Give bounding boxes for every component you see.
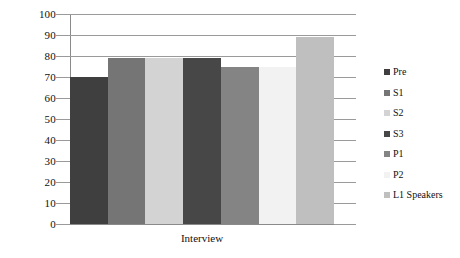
y-axis-tick-mark-right — [334, 56, 356, 57]
y-axis-tick-label: 70 — [45, 72, 56, 83]
gridline — [70, 224, 334, 225]
x-axis-label: Interview — [70, 232, 334, 245]
legend-item: S1 — [384, 83, 460, 104]
y-axis-tick-label: 20 — [45, 177, 56, 188]
legend-label: P1 — [393, 149, 404, 159]
bar-s1 — [108, 58, 146, 224]
y-axis-tick-mark-right — [334, 140, 356, 141]
y-axis-tick-mark-right — [334, 161, 356, 162]
y-axis-tick-label: 40 — [45, 135, 56, 146]
legend-item: L1 Speakers — [384, 185, 460, 206]
bar-s2 — [145, 58, 183, 224]
legend-swatch-icon — [384, 90, 390, 96]
bar-p2 — [259, 67, 297, 225]
bar-pre — [70, 77, 108, 224]
legend-item: Pre — [384, 62, 460, 83]
legend-label: P2 — [393, 170, 404, 180]
y-axis-tick-mark-right — [334, 182, 356, 183]
legend-label: S1 — [393, 88, 404, 98]
y-axis-tick-mark — [56, 161, 70, 162]
y-axis-tick-mark — [56, 140, 70, 141]
y-axis-tick-label: 10 — [45, 198, 56, 209]
legend-swatch-icon — [384, 192, 390, 198]
bar-group — [70, 14, 334, 224]
y-axis-tick-label: 30 — [45, 156, 56, 167]
y-axis-tick-label: 50 — [45, 114, 56, 125]
legend-item: S2 — [384, 103, 460, 124]
y-axis-tick-mark — [56, 203, 70, 204]
y-axis-tick-label: 90 — [45, 30, 56, 41]
y-axis-tick-mark — [56, 98, 70, 99]
y-axis-tick-mark — [56, 77, 70, 78]
y-axis-tick-mark-right — [334, 98, 356, 99]
y-axis-tick-label: 60 — [45, 93, 56, 104]
legend-swatch-icon — [384, 151, 390, 157]
y-axis-tick-mark-right — [334, 77, 356, 78]
y-axis-tick-mark-right — [334, 14, 356, 15]
legend-swatch-icon — [384, 110, 390, 116]
y-axis-tick-mark-right — [334, 224, 356, 225]
legend-swatch-icon — [384, 172, 390, 178]
y-axis-tick-mark — [56, 182, 70, 183]
legend-item: S3 — [384, 124, 460, 145]
y-axis-tick-mark — [56, 56, 70, 57]
y-axis-tick-label: 80 — [45, 51, 56, 62]
legend-label: S2 — [393, 108, 404, 118]
legend-item: P1 — [384, 144, 460, 165]
legend-swatch-icon — [384, 69, 390, 75]
plot-area — [70, 14, 334, 224]
bar-chart: 1009080706050403020100 Interview PreS1S2… — [0, 0, 460, 258]
y-axis-tick-mark — [56, 224, 70, 225]
y-axis-tick-label: 100 — [39, 9, 56, 20]
bar-s3 — [183, 58, 221, 224]
y-axis-tick-mark-right — [334, 119, 356, 120]
legend-label: S3 — [393, 129, 404, 139]
y-axis-tick-mark-right — [334, 35, 356, 36]
y-axis-tick-mark — [56, 14, 70, 15]
y-axis-tick-mark — [56, 119, 70, 120]
bar-p1 — [221, 67, 259, 225]
y-axis-tick-labels: 1009080706050403020100 — [0, 0, 56, 258]
bar-l1-speakers — [296, 37, 334, 224]
legend-label: L1 Speakers — [393, 190, 443, 200]
y-axis-tick-mark — [56, 35, 70, 36]
legend-label: Pre — [393, 67, 406, 77]
legend-item: P2 — [384, 165, 460, 186]
legend-swatch-icon — [384, 131, 390, 137]
y-axis-tick-mark-right — [334, 203, 356, 204]
chart-legend: PreS1S2S3P1P2L1 Speakers — [384, 62, 460, 206]
